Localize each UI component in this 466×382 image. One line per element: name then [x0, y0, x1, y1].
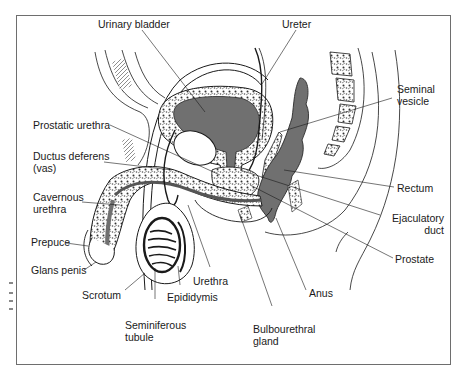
- label-scrotum: Scrotum: [82, 289, 121, 301]
- label-ureter: Ureter: [282, 18, 311, 30]
- label-seminal-vesicle-2: vesicle: [397, 95, 429, 107]
- label-ejaculatory-duct: Ejaculatory: [380, 212, 444, 224]
- label-seminal-vesicle: Seminal: [397, 83, 435, 95]
- label-cavernous-urethra: Cavernous: [33, 191, 84, 203]
- label-prepuce: Prepuce: [31, 236, 70, 248]
- label-glans-penis: Glans penis: [31, 264, 86, 276]
- label-ductus-deferens-2: (vas): [33, 162, 56, 174]
- muscle-hatching: [112, 58, 136, 162]
- label-urethra: Urethra: [193, 275, 228, 287]
- label-rectum: Rectum: [397, 182, 433, 194]
- label-seminiferous-tubule: Seminiferous: [125, 319, 186, 331]
- label-bulbourethral-gland: Bulbourethral: [253, 323, 315, 335]
- label-bulbourethral-gland-2: gland: [253, 335, 279, 347]
- label-prostate: Prostate: [395, 253, 434, 265]
- label-ejaculatory-duct-2: duct: [380, 224, 444, 236]
- sacrum: [324, 52, 356, 156]
- label-seminiferous-tubule-2: tubule: [125, 331, 154, 343]
- label-ductus-deferens: Ductus deferens: [33, 150, 109, 162]
- label-anus: Anus: [309, 287, 333, 299]
- label-epididymis: Epididymis: [167, 291, 218, 303]
- label-prostatic-urethra: Prostatic urethra: [33, 119, 110, 131]
- label-urinary-bladder: Urinary bladder: [98, 18, 170, 30]
- testis: [144, 218, 180, 272]
- bulbourethral-gland-shape: [238, 206, 252, 222]
- label-cavernous-urethra-2: urethra: [33, 203, 66, 215]
